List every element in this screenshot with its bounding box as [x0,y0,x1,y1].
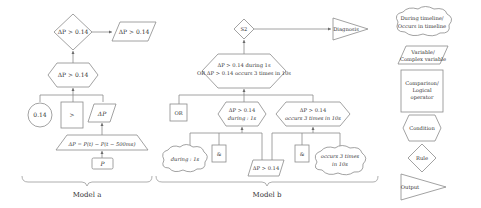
svg-text:during : 1s: during : 1s [171,156,200,163]
model-b: S2 Diagnosis ΔP > 0.14 during 1s OR ΔP >… [156,18,378,199]
svg-text:occurs 3 times in 10s: occurs 3 times in 10s [285,115,341,121]
svg-text:Comparison/: Comparison/ [405,80,439,87]
svg-text:OR: OR [174,110,183,116]
svg-text:ΔP > 0.14 during 1s: ΔP > 0.14 during 1s [217,62,270,69]
svg-text:OR ΔP > 0.14 occurs 3 times in: OR ΔP > 0.14 occurs 3 times in 10s [197,70,291,76]
svg-text:during : 1s: during : 1s [228,115,257,122]
svg-text:ΔP > 0.14: ΔP > 0.14 [119,28,150,35]
model-b-left-and-box[interactable]: & [212,145,226,162]
svg-text:During timeline/: During timeline/ [400,15,443,22]
model-b-left-hexagon[interactable]: ΔP > 0.14 during : 1s [218,102,266,126]
svg-text:ΔP > 0.14: ΔP > 0.14 [58,71,89,78]
svg-text:Occurs in timeline: Occurs in timeline [398,23,446,29]
model-a: ΔP > 0.14 ΔP > 0.14 ΔP > 0.14 0.14 > [22,14,156,199]
model-a-output-parallelogram[interactable]: ΔP > 0.14 [112,22,156,41]
svg-text:operator: operator [411,94,434,101]
model-a-brace [22,176,152,186]
model-a-operator-box[interactable]: > [61,102,83,128]
model-a-label: Model a [73,191,102,199]
legend-operator-box: Comparison/ Logical operator [401,70,443,112]
legend-timeline-cloud: During timeline/ Occurs in timeline [396,7,451,36]
svg-text:ΔP > 0.14: ΔP > 0.14 [300,107,327,113]
model-b-right-cloud[interactable]: occurs 3 times in 10s [315,146,366,175]
model-b-right-and-box[interactable]: & [295,145,309,162]
model-a-formula-trapezoid[interactable]: ΔP = P(t) − P(t − 500ms) [56,135,148,150]
legend-condition-hexagon: Condition [403,115,441,141]
model-b-left-cloud[interactable]: during : 1s [163,145,208,172]
model-b-condition-hexagon[interactable]: ΔP > 0.14 during 1s OR ΔP > 0.14 occurs … [197,54,291,88]
model-b-right-hexagon[interactable]: ΔP > 0.14 occurs 3 times in 10s [276,102,350,126]
model-a-constant-circle[interactable]: 0.14 [28,103,52,127]
flowchart-diagram: ΔP > 0.14 ΔP > 0.14 ΔP > 0.14 0.14 > [0,0,481,208]
legend-rule-diamond: Rule [408,144,436,172]
svg-text:Output: Output [401,184,420,191]
svg-text:&: & [217,151,222,157]
legend-output-triangle: Output [401,174,446,200]
svg-text:ΔP > 0.14: ΔP > 0.14 [229,107,256,113]
svg-text:Rule: Rule [416,155,428,161]
legend-variable-parallelogram: Variable/ Complex variable [398,46,448,64]
svg-text:Complex variable: Complex variable [400,56,446,63]
svg-text:Variable/: Variable/ [410,49,435,55]
model-b-output-triangle[interactable]: Diagnosis [333,18,368,40]
legend: During timeline/ Occurs in timeline Vari… [396,7,451,201]
connector [40,95,103,102]
svg-text:occurs 3 times: occurs 3 times [321,153,360,159]
model-a-condition-hexagon[interactable]: ΔP > 0.14 [48,63,98,87]
model-b-rule-diamond[interactable]: S2 [234,19,254,39]
model-a-variable-parallelogram[interactable]: ΔP [88,104,116,122]
model-b-variable-parallelogram[interactable]: ΔP > 0.14 [248,160,284,176]
svg-text:Diagnosis: Diagnosis [333,26,359,33]
svg-text:ΔP > 0.14: ΔP > 0.14 [58,28,89,35]
model-b-or-box[interactable]: OR [170,104,187,121]
svg-text:>: > [69,111,74,118]
svg-text:ΔP > 0.14: ΔP > 0.14 [253,165,280,171]
model-b-brace [156,176,378,186]
svg-text:&: & [300,151,305,157]
svg-text:ΔP = P(t) − P(t − 500ms): ΔP = P(t) − P(t − 500ms) [68,141,136,147]
model-a-rule-diamond[interactable]: ΔP > 0.14 [54,14,92,50]
model-b-label: Model b [253,191,282,199]
svg-text:0.14: 0.14 [33,111,47,118]
svg-text:in 10s: in 10s [332,161,348,167]
svg-text:Condition: Condition [409,125,435,131]
model-a-input-box[interactable]: P [92,158,113,169]
svg-text:S2: S2 [241,26,248,32]
svg-text:Logical: Logical [412,87,432,94]
svg-text:ΔP: ΔP [97,110,107,117]
